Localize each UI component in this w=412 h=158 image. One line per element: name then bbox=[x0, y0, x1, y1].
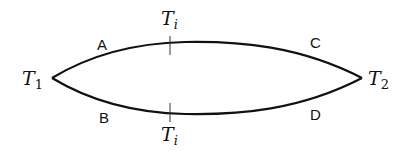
node-label-t2: T2 bbox=[368, 67, 389, 92]
path-label-c: C bbox=[310, 34, 321, 51]
path-label-d: D bbox=[310, 106, 321, 123]
tick-label-upper: Ti bbox=[161, 7, 178, 32]
node-label-t1: T1 bbox=[22, 67, 43, 92]
path-label-b: B bbox=[99, 109, 109, 126]
diagram-canvas: T1 T2 Ti Ti A B C D bbox=[0, 0, 412, 158]
path-label-a: A bbox=[97, 36, 107, 53]
tick-label-lower: Ti bbox=[161, 123, 178, 148]
